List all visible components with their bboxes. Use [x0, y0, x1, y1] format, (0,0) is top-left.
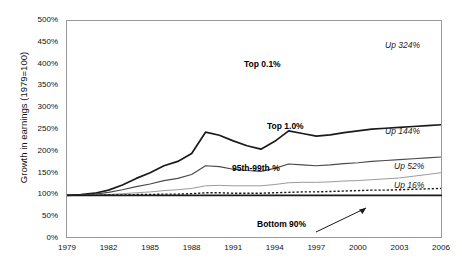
- x-tick-1982: 1982: [89, 243, 129, 252]
- endnote-top01: Up 324%: [385, 40, 420, 50]
- endnote-p95-99: Up 52%: [394, 161, 424, 171]
- x-tick-1979: 1979: [47, 243, 87, 252]
- chart-container: Growth in earnings (1979=100) 0%50%100%1…: [0, 0, 462, 275]
- endnote-bottom90: Up 16%: [394, 180, 424, 190]
- x-tick-1997: 1997: [296, 243, 336, 252]
- series-label-top10: Top 1.0%: [267, 121, 304, 131]
- series-label-top01: Top 0.1%: [244, 59, 281, 69]
- series-label-bottom90: Bottom 90%: [257, 219, 306, 229]
- x-tick-1994: 1994: [255, 243, 295, 252]
- endnote-top10: Up 144%: [385, 126, 420, 136]
- x-tick-1985: 1985: [130, 243, 170, 252]
- x-tick-1988: 1988: [172, 243, 212, 252]
- x-tick-2003: 2003: [379, 243, 419, 252]
- x-tick-2000: 2000: [338, 243, 378, 252]
- x-tick-1991: 1991: [213, 243, 253, 252]
- series-label-p95-99: 95th-99th %: [232, 163, 280, 173]
- x-tick-2006: 2006: [421, 243, 461, 252]
- bottom90-leader-arrow: [316, 208, 366, 232]
